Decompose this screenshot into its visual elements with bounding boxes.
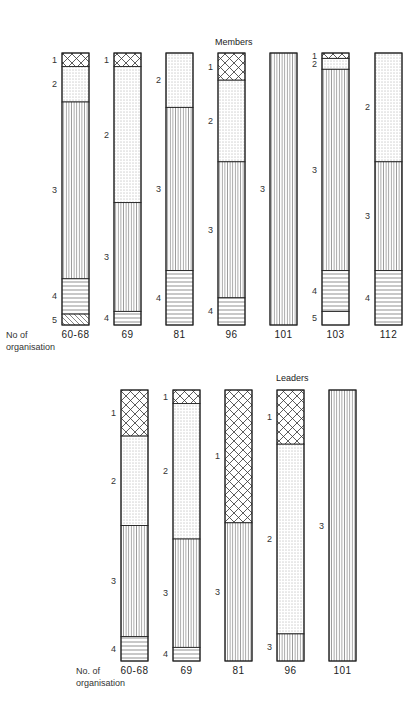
segment-4	[114, 311, 141, 325]
segment-3	[270, 53, 297, 325]
segment-label: 3	[215, 587, 220, 597]
bar-101: 3101	[260, 53, 297, 340]
segment-label: 2	[163, 466, 168, 476]
segment-2	[173, 404, 200, 539]
segment-label: 2	[52, 79, 57, 89]
segment-3	[218, 162, 245, 298]
segment-label: 4	[163, 649, 168, 659]
category-label: 69	[121, 329, 133, 340]
members-axis-label-line1: No of	[6, 330, 28, 340]
category-label: 112	[380, 329, 397, 340]
segment-1	[322, 53, 349, 58]
segment-label: 3	[208, 225, 213, 235]
segment-label: 1	[52, 55, 57, 65]
bar-69: 123469	[163, 390, 200, 676]
segment-label: 3	[104, 252, 109, 262]
segment-label: 3	[365, 211, 370, 221]
members-axis-label-line2: organisation	[6, 342, 55, 352]
leaders-axis-label-line1: No. of	[76, 666, 101, 676]
category-label: 81	[173, 329, 185, 340]
bar-112: 234112	[365, 53, 402, 340]
segment-label: 2	[208, 116, 213, 126]
segment-label: 1	[267, 412, 272, 422]
segment-2	[114, 67, 141, 203]
segment-2	[277, 444, 304, 634]
segment-label: 4	[312, 286, 317, 296]
segment-3	[277, 634, 304, 661]
bar-81: 23481	[156, 53, 193, 340]
bar-96: 123496	[208, 53, 245, 340]
segment-label: 2	[312, 59, 317, 69]
category-label: 60-68	[61, 329, 89, 340]
segment-label: 4	[52, 291, 57, 301]
segment-label: 4	[156, 293, 161, 303]
leaders-chart: Leaders No. of organisation 123460-68123…	[76, 373, 356, 688]
segment-label: 1	[104, 55, 109, 65]
segment-2	[322, 58, 349, 69]
segment-label: 5	[312, 313, 317, 323]
segment-1	[277, 390, 304, 444]
segment-label: 2	[267, 534, 272, 544]
segment-3	[173, 539, 200, 647]
segment-label: 1	[111, 408, 116, 418]
category-label: 101	[274, 329, 292, 340]
segment-label: 4	[208, 306, 213, 316]
leaders-axis-label-line2: organisation	[76, 678, 125, 688]
bar-60-68: 123460-68	[111, 390, 149, 676]
segment-2	[375, 53, 402, 162]
segment-4	[322, 271, 349, 312]
bar-69: 123469	[104, 53, 141, 340]
segment-3	[225, 523, 252, 661]
segment-label: 1	[208, 62, 213, 72]
segment-label: 3	[111, 576, 116, 586]
segment-2	[121, 436, 148, 525]
bar-103: 12345103	[312, 51, 349, 340]
category-label: 101	[333, 665, 351, 676]
segment-3	[322, 69, 349, 270]
segment-3	[375, 162, 402, 271]
segment-3	[121, 526, 148, 637]
bar-96: 12396	[267, 390, 304, 676]
segment-label: 3	[267, 642, 272, 652]
segment-label: 3	[163, 588, 168, 598]
segment-3	[62, 102, 89, 279]
segment-label: 3	[156, 184, 161, 194]
segment-4	[218, 298, 245, 325]
segment-1	[218, 53, 245, 80]
segment-2	[166, 53, 193, 107]
stacked-bar-charts: Members No of organisation 1234560-68123…	[0, 0, 417, 705]
segment-1	[225, 390, 252, 523]
leaders-title: Leaders	[276, 373, 309, 383]
segment-label: 2	[156, 75, 161, 85]
segment-5	[62, 314, 89, 325]
segment-3	[329, 390, 356, 661]
segment-label: 1	[163, 392, 168, 402]
segment-1	[114, 53, 141, 67]
segment-1	[173, 390, 200, 404]
segment-4	[62, 279, 89, 314]
segment-label: 4	[365, 293, 370, 303]
category-label: 96	[225, 329, 237, 340]
category-label: 96	[284, 665, 296, 676]
segment-2	[218, 80, 245, 162]
segment-3	[166, 107, 193, 270]
segment-label: 3	[52, 185, 57, 195]
segment-4	[375, 271, 402, 325]
category-label: 81	[232, 665, 244, 676]
segment-label: 4	[111, 644, 116, 654]
segment-label: 3	[319, 521, 324, 531]
segment-label: 5	[52, 315, 57, 325]
members-chart: Members No of organisation 1234560-68123…	[6, 37, 402, 352]
segment-4	[173, 647, 200, 661]
segment-1	[62, 53, 89, 67]
segment-4	[121, 637, 148, 661]
segment-label: 4	[104, 313, 109, 323]
segment-label: 2	[365, 102, 370, 112]
category-label: 69	[180, 665, 192, 676]
bar-101: 3101	[319, 390, 356, 676]
segment-3	[114, 203, 141, 312]
segment-label: 2	[111, 476, 116, 486]
category-label: 103	[326, 329, 344, 340]
segment-label: 3	[312, 165, 317, 175]
segment-label: 3	[260, 184, 265, 194]
